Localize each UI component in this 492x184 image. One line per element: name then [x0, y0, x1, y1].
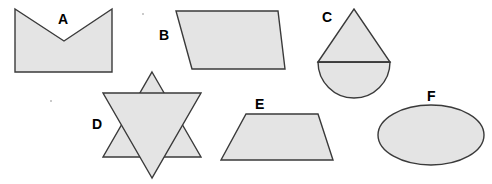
paper-speck — [142, 13, 144, 15]
shape-label-d: D — [92, 117, 102, 131]
shape-label-c: C — [322, 10, 332, 24]
shape-label-a: A — [58, 12, 68, 26]
shape-six-pointed-star-group — [103, 72, 201, 178]
shape-semicircle — [318, 62, 390, 98]
shape-parallelogram — [176, 11, 285, 69]
shape-label-f: F — [427, 89, 436, 103]
shape-ellipse — [378, 105, 484, 165]
shape-trapezoid — [221, 114, 333, 160]
shapes-figure: A B C D E F — [0, 0, 492, 184]
shape-label-b: B — [159, 28, 169, 42]
shape-label-e: E — [255, 97, 264, 111]
shapes-canvas — [0, 0, 492, 184]
paper-speck — [50, 100, 52, 102]
